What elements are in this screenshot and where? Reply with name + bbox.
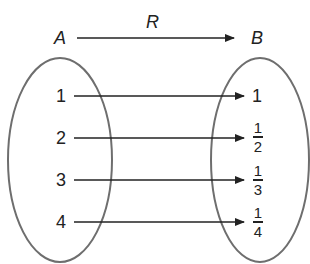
codomain-element-half: 1 2 — [253, 120, 263, 154]
set-b-label: B — [251, 29, 263, 47]
arrow-diagram: R A B 1 2 3 4 1 1 2 1 3 1 4 — [0, 0, 310, 264]
domain-element-1: 1 — [56, 87, 66, 105]
relation-label: R — [146, 13, 159, 31]
domain-element-4: 4 — [56, 213, 66, 231]
codomain-element-third: 1 3 — [253, 163, 263, 197]
codomain-element-quarter: 1 4 — [253, 205, 263, 239]
diagram-graphics — [0, 0, 310, 264]
denominator: 3 — [254, 182, 262, 197]
numerator: 1 — [254, 163, 262, 178]
numerator: 1 — [254, 205, 262, 220]
set-a-label: A — [54, 29, 66, 47]
numerator: 1 — [254, 120, 262, 135]
codomain-element-1: 1 — [252, 87, 262, 105]
denominator: 4 — [254, 224, 262, 239]
domain-element-2: 2 — [56, 129, 66, 147]
domain-element-3: 3 — [56, 171, 66, 189]
denominator: 2 — [254, 139, 262, 154]
